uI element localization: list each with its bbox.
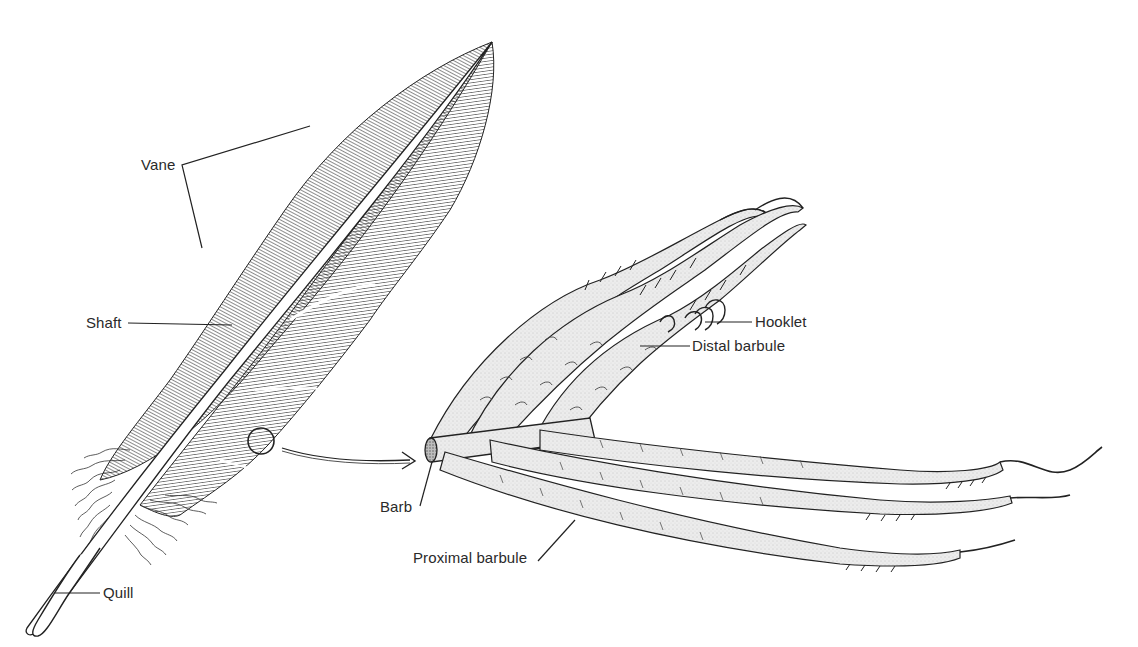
shaft: [26, 42, 492, 635]
quill-label: Quill: [103, 584, 134, 601]
feather-diagram: [0, 0, 1138, 647]
distal-barbules: [430, 198, 806, 450]
quill: [33, 548, 100, 636]
feather: [26, 42, 494, 636]
barb-label: Barb: [380, 498, 412, 515]
shaft-label: Shaft: [86, 314, 122, 331]
proximal-barbules: [440, 430, 1102, 572]
proximal-barbule-leader: [538, 520, 575, 561]
magnifier-arrow-icon: [282, 448, 410, 461]
barb-leader: [420, 462, 432, 506]
barb-detail: [425, 198, 1102, 572]
left-vane: [100, 42, 492, 480]
vane-label: Vane: [141, 156, 175, 173]
distal-barbule-label: Distal barbule: [692, 337, 785, 354]
proximal-barbule-label: Proximal barbule: [413, 549, 527, 566]
barb-cross-section: [425, 438, 437, 462]
hooklet-label: Hooklet: [755, 313, 807, 330]
